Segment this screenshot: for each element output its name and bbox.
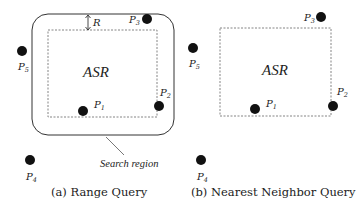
point-p5-label: P5 [188, 58, 200, 71]
caption-range-query: (a) Range Query [51, 185, 148, 199]
point-p4 [25, 155, 35, 165]
search-region-label: Search region [100, 158, 158, 169]
point-p5-label: P5 [17, 61, 29, 74]
asr-label: ASR [82, 64, 109, 80]
diagram-canvas: R ASR Search region P1 P2 P3 P4 P5 (a) R… [0, 0, 361, 209]
point-p3 [316, 12, 326, 22]
point-p5 [188, 43, 198, 53]
panel-range-query: R ASR Search region P1 P2 P3 P4 P5 (a) R… [17, 14, 174, 199]
point-p4-label: P4 [25, 171, 37, 184]
point-p1-label: P1 [93, 99, 105, 112]
point-p1-label: P1 [265, 98, 277, 111]
asr-label: ASR [261, 62, 288, 78]
point-p2-label: P2 [336, 86, 348, 99]
point-p1 [250, 104, 260, 114]
panel-nearest-neighbor-query: ASR P1 P2 P3 P4 P5 (b) Nearest Neighbor … [188, 12, 356, 199]
point-p2-label: P2 [159, 87, 171, 100]
caption-nearest-neighbor-query: (b) Nearest Neighbor Query [191, 185, 356, 199]
radius-label: R [92, 17, 101, 28]
search-region-leader-line [106, 137, 124, 155]
point-p3-label: P3 [303, 12, 315, 25]
radius-arrow [86, 15, 91, 30]
point-p4 [196, 155, 206, 165]
point-p3 [142, 14, 152, 24]
point-p1 [78, 106, 88, 116]
point-p2 [328, 101, 338, 111]
point-p5 [17, 46, 27, 56]
point-p2 [154, 101, 164, 111]
point-p4-label: P4 [196, 171, 208, 184]
point-p3-label: P3 [128, 14, 140, 27]
